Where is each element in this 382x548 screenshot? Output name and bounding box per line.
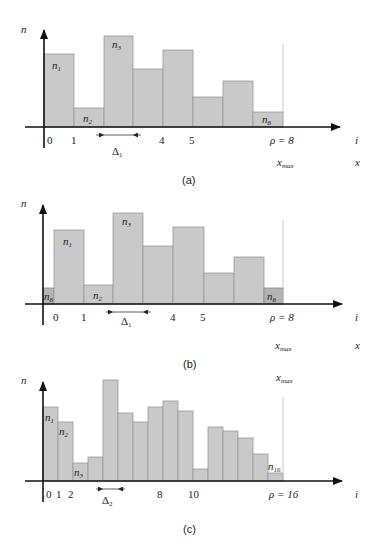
tick-1: 1 bbox=[56, 488, 62, 500]
bar-n4 bbox=[133, 69, 163, 127]
figure: n n1 n2 n3 n8 0 1 4 5 ρ = 8 i xmax x Δ1 … bbox=[0, 0, 382, 548]
delta-label: Δ2 bbox=[102, 494, 113, 508]
tick-1: 1 bbox=[81, 311, 87, 323]
tick-1: 1 bbox=[71, 134, 77, 146]
panel-c: n n1 n2 n3 n16 0 1 2 8 10 ρ = 16 i xmax … bbox=[21, 371, 358, 535]
caption-c: (c) bbox=[183, 523, 196, 535]
histogram-bars bbox=[43, 213, 283, 304]
bar-n8 bbox=[148, 407, 163, 481]
caption-a: (a) bbox=[182, 174, 195, 186]
tick-4: 4 bbox=[170, 311, 176, 323]
tick-8: 8 bbox=[157, 488, 163, 500]
bar-n5 bbox=[103, 380, 118, 481]
histogram-bars bbox=[44, 36, 283, 127]
xmax-label: xmax bbox=[275, 371, 293, 385]
delta-label: Δ1 bbox=[112, 145, 123, 159]
bar-n4 bbox=[143, 246, 173, 304]
xmax-label: xmax bbox=[274, 339, 292, 353]
bar-n13 bbox=[223, 431, 238, 481]
value-axis-label: x bbox=[354, 339, 360, 351]
rho-label: ρ = 16 bbox=[268, 488, 299, 500]
tick-2: 2 bbox=[68, 488, 74, 500]
index-axis-label: i bbox=[355, 488, 358, 500]
bar-n6 bbox=[204, 273, 234, 304]
tick-5: 5 bbox=[189, 134, 195, 146]
bar-n10 bbox=[178, 411, 193, 481]
caption-b: (b) bbox=[183, 358, 196, 370]
bar-n6 bbox=[118, 413, 133, 481]
xmax-label: xmax bbox=[276, 156, 294, 170]
rho-label: ρ = 8 bbox=[269, 134, 294, 146]
tick-0: 0 bbox=[47, 134, 53, 146]
bar-n7 bbox=[234, 257, 264, 304]
bar-n6 bbox=[193, 97, 223, 127]
bar-n7 bbox=[223, 81, 253, 127]
tick-0: 0 bbox=[53, 311, 59, 323]
tick-5: 5 bbox=[200, 311, 206, 323]
bar-n5 bbox=[173, 227, 204, 304]
bar-n11 bbox=[193, 469, 208, 481]
y-axis-label: n bbox=[21, 374, 27, 386]
y-axis-label: n bbox=[21, 197, 27, 209]
tick-0: 0 bbox=[46, 488, 52, 500]
rho-label: ρ = 8 bbox=[269, 311, 294, 323]
bar-n5 bbox=[163, 50, 193, 127]
tick-10: 10 bbox=[188, 488, 200, 500]
y-axis-label: n bbox=[21, 23, 27, 35]
index-axis-label: i bbox=[355, 134, 358, 146]
panel-a: n n1 n2 n3 n8 0 1 4 5 ρ = 8 i xmax x Δ1 … bbox=[21, 23, 360, 186]
bar-n14 bbox=[238, 438, 253, 481]
delta-label: Δ1 bbox=[121, 315, 132, 329]
bar-label-n16: n16 bbox=[268, 460, 281, 474]
bar-n16 bbox=[268, 473, 283, 481]
bar-n15 bbox=[253, 454, 268, 481]
value-axis-label: x bbox=[354, 156, 360, 168]
panel-b: n n8 n1 n2 n3 n8 0 1 4 5 ρ = 8 i xmax x … bbox=[21, 197, 360, 370]
bar-n9 bbox=[163, 401, 178, 481]
index-axis-label: i bbox=[355, 311, 358, 323]
bar-n7 bbox=[133, 422, 148, 481]
bar-n12 bbox=[208, 427, 223, 481]
bar-n4 bbox=[88, 457, 103, 481]
tick-4: 4 bbox=[159, 134, 165, 146]
